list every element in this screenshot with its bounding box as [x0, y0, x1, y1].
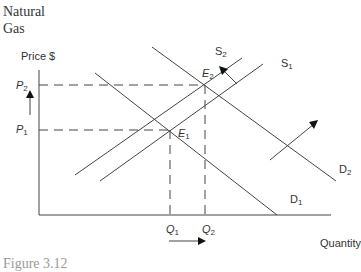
p1-label: P1	[16, 123, 28, 137]
figure-caption: Figure 3.12	[3, 256, 68, 272]
arrowhead-icon	[309, 120, 318, 129]
arrowhead-icon	[198, 237, 206, 245]
demand-curve-d1	[95, 73, 277, 215]
d2-label: D2	[339, 163, 351, 177]
y-axis-label: Price $	[21, 50, 55, 62]
supply-curve-s2	[75, 58, 242, 175]
supply-shift-arrow	[224, 71, 237, 84]
q2-label: Q2	[202, 223, 215, 237]
e1-label: E1	[178, 127, 190, 141]
q1-label: Q1	[166, 223, 179, 237]
s2-label: S2	[215, 45, 227, 59]
s1-label: S1	[281, 57, 293, 71]
p2-label: P2	[16, 79, 28, 93]
x-axis-label: Quantity	[320, 237, 361, 249]
supply-curve-s1	[100, 64, 263, 181]
d1-label: D1	[290, 193, 302, 207]
demand-shift-arrow	[270, 124, 314, 160]
demand-curve-d2	[152, 47, 336, 181]
e2-label: E2	[202, 67, 214, 81]
